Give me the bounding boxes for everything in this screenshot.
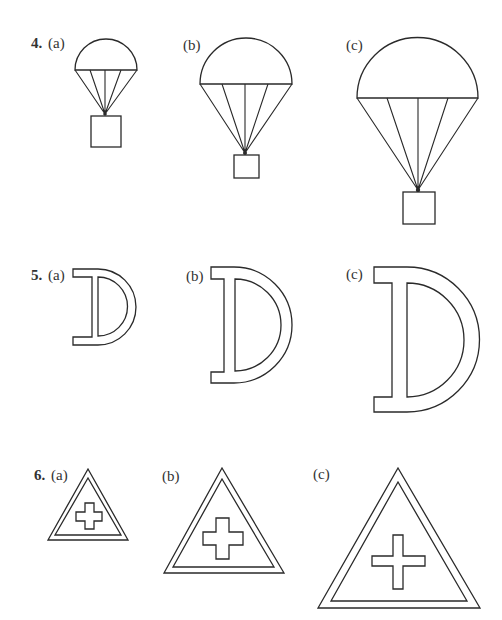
shroud-lines [200, 84, 292, 153]
letter-d-outline [73, 269, 136, 345]
part-label-b: (b) [162, 468, 180, 485]
letter-d-a [73, 269, 136, 345]
letter-d-outline [374, 267, 480, 412]
part-label-b: (b) [186, 268, 204, 285]
letter-d-c [374, 267, 480, 412]
figure-sheet: 4. (a) (b) (c) 5. (a) (b) (c) [0, 0, 502, 620]
part-label-c: (c) [313, 466, 330, 483]
problem-5: 5. (a) (b) (c) [31, 266, 480, 412]
payload-box [403, 192, 435, 224]
problem-number: 5. [31, 267, 43, 283]
canopy [357, 37, 478, 98]
shroud-lines [357, 98, 478, 190]
letter-d-outline [211, 267, 292, 383]
part-label-c: (c) [346, 266, 363, 283]
problem-6: 6. (a) (b) (c) [34, 466, 480, 608]
shroud-lines [75, 70, 137, 114]
canopy [75, 39, 137, 70]
letter-d-b [211, 267, 292, 383]
triangle-sign-c [318, 468, 480, 608]
part-label-b: (b) [183, 37, 201, 54]
part-label-a: (a) [51, 467, 68, 484]
triangle-sign-b [164, 468, 284, 573]
canopy [200, 38, 292, 84]
parachute-b [200, 38, 292, 178]
part-label-a: (a) [48, 267, 65, 284]
parachute-c [357, 37, 478, 224]
harness-knot [103, 112, 107, 116]
problem-4: 4. (a) (b) (c) [31, 35, 478, 224]
problem-number: 6. [34, 467, 46, 483]
part-label-c: (c) [346, 37, 363, 54]
parachute-a [75, 39, 137, 147]
payload-box [91, 116, 121, 147]
part-label-a: (a) [48, 35, 65, 52]
problem-number: 4. [31, 35, 43, 51]
payload-box [234, 155, 259, 178]
